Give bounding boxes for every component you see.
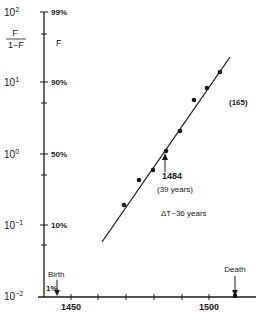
y-left-labels: 102 101 100 10−1 10−2 <box>4 6 23 302</box>
svg-text:1450: 1450 <box>61 302 81 312</box>
svg-text:10−1: 10−1 <box>4 219 23 231</box>
delta-t-label: ΔT~36 years <box>161 209 207 218</box>
svg-text:50%: 50% <box>51 150 67 159</box>
birth-label: Birth <box>48 270 64 279</box>
data-point <box>218 70 223 75</box>
peak-year-label: 1484 <box>162 171 182 181</box>
svg-text:100: 100 <box>4 148 19 160</box>
data-point <box>192 98 197 103</box>
x-labels: 1450 1500 <box>61 302 219 312</box>
peak-age-label: (39 years) <box>157 185 193 194</box>
peak-arrow <box>162 153 168 172</box>
svg-text:99%: 99% <box>51 8 67 17</box>
count-label: (165) <box>229 98 248 107</box>
y-right-labels: 99% F 90% 50% 10% 1% <box>46 8 67 293</box>
svg-text:10−2: 10−2 <box>4 290 23 302</box>
data-point <box>205 86 210 91</box>
svg-text:F: F <box>12 28 18 38</box>
svg-text:F: F <box>56 38 62 48</box>
svg-text:101: 101 <box>4 76 19 88</box>
data-point <box>137 178 142 183</box>
data-point <box>178 129 183 134</box>
logistic-chart: 102 101 100 10−1 10−2 F 1−F 99% F 90% 50… <box>0 0 259 313</box>
svg-text:90%: 90% <box>51 78 67 87</box>
death-label: Death <box>224 265 245 274</box>
data-point <box>164 149 169 154</box>
y-left-axis-title: F 1−F <box>6 28 26 50</box>
data-point <box>151 168 156 173</box>
svg-text:102: 102 <box>4 6 19 18</box>
svg-text:1500: 1500 <box>199 302 219 312</box>
death-arrow <box>232 276 238 298</box>
data-point <box>122 203 127 208</box>
svg-text:10%: 10% <box>51 221 67 230</box>
svg-text:1−F: 1−F <box>8 40 24 50</box>
